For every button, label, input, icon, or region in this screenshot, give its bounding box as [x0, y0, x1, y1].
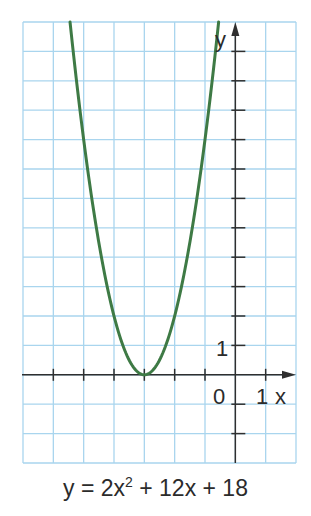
- x-axis-label: x: [275, 384, 286, 409]
- equation-exponent: 2: [125, 474, 133, 490]
- y-axis-label: y: [215, 27, 226, 52]
- equation-suffix: + 12x + 18: [133, 475, 248, 501]
- axes: [22, 22, 296, 463]
- x-tick-label-1: 1: [256, 384, 268, 409]
- equation-caption: y = 2x2 + 12x + 18: [0, 474, 311, 502]
- y-tick-label-1: 1: [216, 336, 228, 361]
- origin-label: 0: [213, 384, 225, 409]
- equation-prefix: y = 2x: [63, 475, 125, 501]
- parabola-chart: y x 0 1 1: [0, 0, 311, 470]
